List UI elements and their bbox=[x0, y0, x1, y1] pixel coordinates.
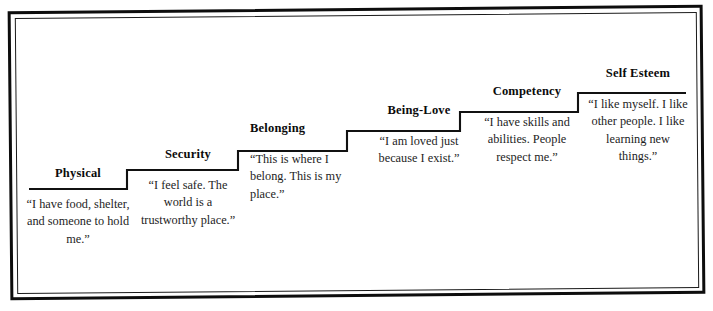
step-label-wrap: Being-Love bbox=[365, 104, 473, 124]
step-label-physical: Physical bbox=[24, 167, 132, 181]
step-quote-security: “I feel safe. The world is a trustworthy… bbox=[134, 177, 242, 229]
step-label-competency: Competency bbox=[470, 85, 584, 99]
step-quote-being-love: “I am loved just because I exist.” bbox=[365, 133, 473, 168]
step-label-belonging: Belonging bbox=[250, 122, 354, 136]
step-quote-competency: “I have skills and abilities. People res… bbox=[470, 114, 584, 166]
figure-canvas: Physical “I have food, shelter, and some… bbox=[0, 0, 713, 311]
step-label-wrap: Security bbox=[134, 148, 242, 168]
step-competency: Competency “I have skills and abilities.… bbox=[470, 85, 584, 166]
step-security: Security “I feel safe. The world is a tr… bbox=[134, 148, 242, 229]
step-self-esteem: Self Esteem “I like myself. I like other… bbox=[586, 67, 690, 166]
step-label-wrap: Self Esteem bbox=[586, 67, 690, 87]
step-label-security: Security bbox=[134, 148, 242, 162]
step-label-self-esteem: Self Esteem bbox=[586, 67, 690, 81]
step-being-love: Being-Love “I am loved just because I ex… bbox=[365, 104, 473, 168]
step-quote-belonging: “This is where I belong. This is my plac… bbox=[250, 151, 354, 203]
step-label-wrap: Physical bbox=[24, 167, 132, 187]
step-label-being-love: Being-Love bbox=[365, 104, 473, 118]
step-label-wrap: Belonging bbox=[250, 122, 354, 142]
step-physical: Physical “I have food, shelter, and some… bbox=[24, 167, 132, 248]
step-belonging: Belonging “This is where I belong. This … bbox=[250, 122, 354, 203]
step-quote-self-esteem: “I like myself. I like other people. I l… bbox=[586, 96, 690, 166]
step-label-wrap: Competency bbox=[470, 85, 584, 105]
step-quote-physical: “I have food, shelter, and someone to ho… bbox=[24, 196, 132, 248]
